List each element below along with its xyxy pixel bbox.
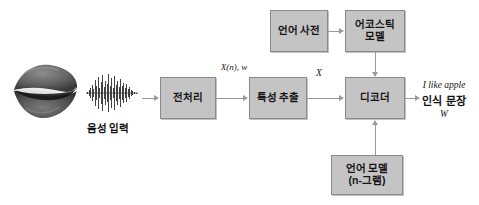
- node-lexicon[interactable]: 언어 사전: [270, 10, 328, 52]
- diagram-canvas: 음성 입력 전처리 X(n), w 특성 추출 X 언어 사전 어코스틱 모델 …: [0, 0, 479, 205]
- output-group: I like apple 인식 문장 W: [409, 80, 479, 119]
- node-preprocess-label: 전처리: [173, 92, 203, 104]
- node-acoustic-model-label: 어코스틱 모델: [355, 19, 395, 43]
- output-english-sentence: I like apple: [409, 80, 479, 90]
- output-korean-label: 인식 문장: [409, 92, 479, 108]
- voice-input-label: 음성 입력: [75, 120, 141, 135]
- node-acoustic-model[interactable]: 어코스틱 모델: [345, 10, 405, 52]
- edge-label-x: X: [312, 68, 326, 78]
- connector-input-to-preprocess: [142, 98, 154, 99]
- node-feature-extraction[interactable]: 특성 추출: [249, 77, 307, 119]
- arrowhead-feature-to-decoder: [339, 95, 344, 101]
- node-decoder-label: 디코더: [360, 92, 390, 104]
- arrowhead-lexicon-to-acoustic: [339, 28, 344, 34]
- connector-acoustic-to-decoder: [375, 52, 376, 72]
- node-preprocess[interactable]: 전처리: [160, 77, 216, 119]
- arrowhead-preprocess-to-feature: [243, 95, 248, 101]
- edge-label-xn: X(n), w: [216, 61, 252, 73]
- audio-waveform-icon: [86, 72, 138, 114]
- node-language-model[interactable]: 언어 모델 (n-그램): [331, 155, 403, 195]
- connector-feature-to-decoder: [307, 98, 339, 99]
- arrowhead-language-model-to-decoder: [372, 120, 378, 125]
- node-lexicon-label: 언어 사전: [278, 25, 321, 37]
- connector-lexicon-to-acoustic: [328, 31, 339, 32]
- output-symbol-w: W: [409, 109, 479, 119]
- node-language-model-label: 언어 모델 (n-그램): [346, 163, 389, 187]
- mouth-lips-icon: [10, 60, 80, 122]
- connector-language-model-to-decoder: [375, 125, 376, 155]
- node-decoder[interactable]: 디코더: [345, 77, 405, 119]
- node-feature-extraction-label: 특성 추출: [257, 92, 300, 104]
- connector-preprocess-to-feature: [216, 98, 243, 99]
- arrowhead-input-to-preprocess: [154, 95, 159, 101]
